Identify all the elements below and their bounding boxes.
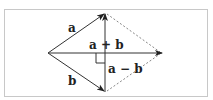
label-a-plus-b: a + b <box>89 38 124 52</box>
label-a-minus-b: a − b <box>108 62 143 76</box>
vector-diagram: a b a + b a − b <box>0 0 213 100</box>
label-b: b <box>68 74 76 88</box>
label-a: a <box>68 21 76 35</box>
